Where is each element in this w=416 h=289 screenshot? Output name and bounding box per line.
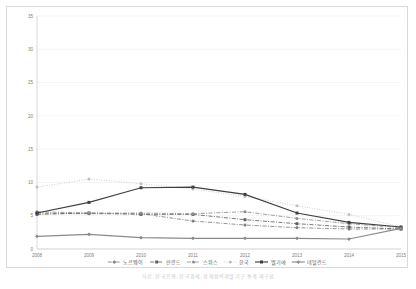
legend-item-5[interactable]: 네덜란드 — [292, 259, 328, 266]
series-point — [35, 234, 39, 238]
y-axis-tick-label: 30 — [28, 47, 34, 52]
series-point — [87, 232, 91, 236]
legend-swatch-marker — [192, 261, 195, 264]
legend-swatch-marker — [296, 260, 300, 264]
series-point — [139, 236, 143, 240]
series-point — [243, 236, 247, 240]
series-line — [37, 179, 401, 227]
legend-label: 노르웨이 — [123, 259, 143, 266]
x-axis-tick-label: 2012 — [240, 253, 251, 258]
x-axis-tick-label: 2015 — [396, 253, 407, 258]
series-point — [36, 212, 39, 215]
series-point — [296, 204, 299, 207]
series-point — [296, 217, 299, 220]
y-axis-tick-label: 0 — [30, 247, 33, 252]
legend-item-3[interactable]: 한국 — [224, 259, 250, 266]
series-point — [295, 226, 299, 230]
y-axis-tick-label: 25 — [28, 80, 34, 85]
legend-label: 한국 — [239, 259, 249, 266]
series-point — [36, 186, 39, 189]
series-point — [347, 237, 351, 241]
x-axis-tick-label: 2014 — [344, 253, 355, 258]
line-chart: 0510152025303520082009201020112012201320… — [7, 7, 409, 269]
series-point — [296, 212, 299, 215]
series-point — [244, 210, 247, 213]
legend-label: 벨기에 — [271, 259, 286, 266]
x-axis-tick-label: 2013 — [292, 253, 303, 258]
series-point — [140, 186, 143, 189]
legend-swatch-marker — [155, 261, 158, 264]
y-axis-tick-label: 15 — [28, 147, 34, 152]
series-point — [140, 182, 143, 185]
legend-item-0[interactable]: 노르웨이 — [108, 259, 144, 266]
x-axis-tick-label: 2009 — [84, 253, 95, 258]
y-axis-tick-label: 20 — [28, 114, 34, 119]
series-3 — [37, 179, 401, 227]
legend-item-1[interactable]: 핀란드 — [150, 259, 181, 265]
legend-item-4[interactable]: 벨기에 — [255, 259, 286, 266]
series-point — [140, 212, 143, 215]
legend-swatch-marker — [112, 260, 116, 264]
series-point — [348, 226, 351, 229]
y-axis-tick-label: 35 — [28, 14, 34, 19]
legend-label: 네덜란드 — [307, 259, 327, 266]
legend-item-2[interactable]: 스위스 — [187, 259, 218, 266]
series-point — [88, 212, 91, 215]
chart-frame: 0510152025303520082009201020112012201320… — [6, 6, 408, 268]
series-point — [348, 221, 351, 224]
x-axis-tick-label: 2010 — [136, 253, 147, 258]
series-point — [192, 212, 195, 215]
y-axis-tick-label: 10 — [28, 180, 34, 185]
chart-plot-area: 0510152025303520082009201020112012201320… — [7, 7, 409, 269]
legend-swatch-marker — [260, 261, 263, 264]
series-point — [191, 236, 195, 240]
series-point — [192, 186, 195, 189]
series-point — [348, 213, 351, 216]
series-point — [244, 218, 247, 221]
legend-label: 핀란드 — [166, 259, 181, 265]
series-point — [295, 236, 299, 240]
series-point — [191, 219, 195, 223]
x-axis-tick-label: 2011 — [188, 253, 198, 258]
x-axis-tick-label: 2008 — [32, 253, 43, 258]
series-point — [243, 223, 247, 227]
y-axis-tick-label: 5 — [30, 213, 33, 218]
series-line — [37, 228, 401, 239]
legend-swatch-marker — [229, 261, 232, 264]
figure-caption: 자료: 한국은행, 한국경제, 경제협력개발기구 통계 재구성 — [0, 272, 416, 279]
series-5 — [37, 228, 401, 239]
series-point — [88, 201, 91, 204]
series-point — [296, 222, 299, 225]
series-point — [244, 193, 247, 196]
legend-label: 스위스 — [203, 259, 218, 266]
series-point — [88, 178, 91, 181]
